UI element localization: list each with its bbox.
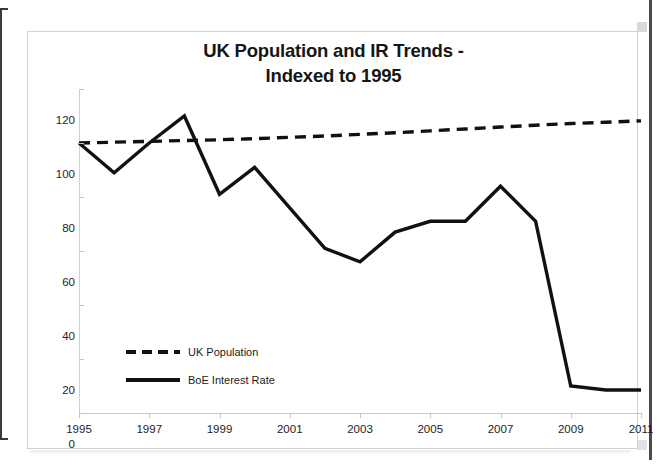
- legend-label-boe-interest-rate: BoE Interest Rate: [188, 374, 275, 386]
- legend-swatch-solid-icon: [124, 373, 182, 387]
- legend-label-uk-population: UK Population: [188, 346, 258, 358]
- y-axis-tick-mark: [79, 359, 84, 360]
- legend-item-boe-interest-rate: BoE Interest Rate: [124, 366, 334, 394]
- scan-frame-left-edge: [0, 8, 8, 440]
- y-axis-tick-mark: [79, 251, 84, 252]
- legend-item-uk-population: UK Population: [124, 338, 334, 366]
- scan-artifact-top-right: [637, 22, 647, 32]
- x-axis-tick-mark: [641, 413, 642, 418]
- chart-legend: UK Population BoE Interest Rate: [124, 338, 334, 394]
- scan-shadow: [30, 450, 630, 453]
- legend-swatch-dashed-icon: [124, 345, 182, 359]
- y-axis-tick-mark: [79, 305, 84, 306]
- y-axis-tick-mark: [79, 143, 84, 144]
- chart-container: UK Population and IR Trends - Indexed to…: [27, 31, 638, 449]
- y-axis-tick-mark: [79, 89, 84, 90]
- scan-frame-right-edge: [649, 0, 652, 460]
- y-axis-tick-mark: [79, 197, 84, 198]
- page-canvas: UK Population and IR Trends - Indexed to…: [0, 0, 668, 473]
- y-axis-tick-mark: [79, 413, 84, 414]
